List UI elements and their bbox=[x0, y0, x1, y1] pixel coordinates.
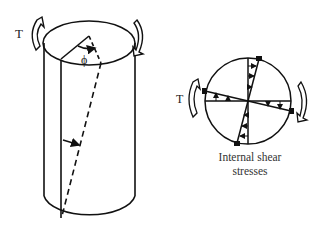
cylinder bbox=[43, 21, 135, 218]
torque-arrow-cs-right-icon bbox=[297, 82, 307, 122]
caption: Internal shear stresses bbox=[206, 150, 294, 178]
torque-arrow-left-icon bbox=[32, 17, 44, 50]
torque-label-cross-section: T bbox=[176, 92, 184, 106]
caption-line-1: Internal shear bbox=[206, 150, 294, 164]
phi-label: ϕ bbox=[81, 53, 87, 67]
caption-line-2: stresses bbox=[206, 164, 294, 178]
cylinder-bottom-arc bbox=[44, 196, 135, 215]
phi-arc-arrow bbox=[78, 46, 95, 49]
torque-label-cylinder: T bbox=[15, 26, 23, 41]
torque-arrow-cs-left-icon bbox=[189, 79, 200, 117]
torsion-diagram: ϕ T T bbox=[0, 0, 326, 229]
twisted-line bbox=[62, 63, 101, 216]
top-radius-2 bbox=[89, 36, 101, 63]
cylinder-top-ellipse bbox=[43, 21, 135, 65]
shear-strain-arrow bbox=[63, 140, 79, 145]
cross-section bbox=[205, 58, 291, 144]
